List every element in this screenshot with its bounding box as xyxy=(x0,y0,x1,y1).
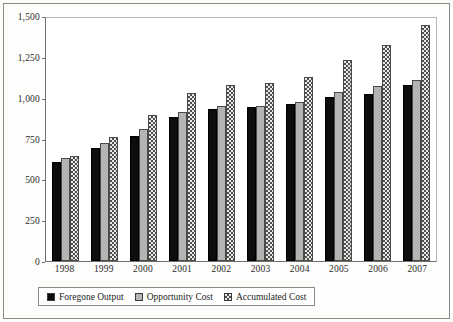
bar[interactable] xyxy=(412,80,421,261)
chart-page: 1,500 1,250 1,000 750 500 250 0 19981999… xyxy=(0,0,453,322)
bar[interactable] xyxy=(208,109,217,261)
legend-swatch-icon xyxy=(47,293,55,301)
x-axis-tick-label: 2006 xyxy=(359,264,398,274)
y-axis-tick: 0 xyxy=(35,257,45,267)
bar[interactable] xyxy=(334,92,343,261)
x-axis-tick-label: 2003 xyxy=(241,264,280,274)
bar-group xyxy=(169,18,196,261)
x-axis-tick-label: 2005 xyxy=(319,264,358,274)
bar[interactable] xyxy=(226,85,235,261)
bar[interactable] xyxy=(421,25,430,261)
bar[interactable] xyxy=(403,85,412,261)
plot-area xyxy=(45,17,437,262)
bar[interactable] xyxy=(70,156,79,261)
bar[interactable] xyxy=(169,117,178,261)
x-axis-tick-label: 1999 xyxy=(84,264,123,274)
bar[interactable] xyxy=(61,158,70,261)
bar[interactable] xyxy=(217,106,226,261)
y-axis-tick: 750 xyxy=(25,135,45,145)
legend-item-opportunity-cost[interactable]: Opportunity Cost xyxy=(135,292,213,302)
legend-label: Opportunity Cost xyxy=(147,292,213,302)
y-axis-tick: 250 xyxy=(25,216,45,226)
bar[interactable] xyxy=(373,86,382,261)
bar-group xyxy=(364,18,391,261)
x-axis-tick-label: 1998 xyxy=(45,264,84,274)
y-axis-tick-label: 1,250 xyxy=(18,53,45,63)
bar[interactable] xyxy=(382,45,391,261)
legend-label: Accumulated Cost xyxy=(236,292,306,302)
x-axis-tick-label: 2000 xyxy=(123,264,162,274)
bar-group xyxy=(325,18,352,261)
legend-item-foregone-output[interactable]: Foregone Output xyxy=(47,292,124,302)
y-axis-tick: 1,000 xyxy=(18,94,45,104)
bar[interactable] xyxy=(325,97,334,261)
bar[interactable] xyxy=(100,143,109,261)
bar-group xyxy=(52,18,79,261)
bar-group xyxy=(130,18,157,261)
x-axis-tick-label: 2007 xyxy=(398,264,437,274)
y-axis-tick-label: 250 xyxy=(25,216,45,226)
bar[interactable] xyxy=(265,83,274,261)
legend-item-accumulated-cost[interactable]: Accumulated Cost xyxy=(224,292,306,302)
bar[interactable] xyxy=(286,104,295,261)
y-axis-tick: 1,500 xyxy=(18,12,45,22)
bar-group xyxy=(403,18,430,261)
y-axis-tick-label: 1,500 xyxy=(18,12,45,22)
bar[interactable] xyxy=(247,107,256,261)
legend-swatch-icon xyxy=(135,293,143,301)
bar[interactable] xyxy=(178,112,187,261)
bar[interactable] xyxy=(304,77,313,261)
legend-swatch-icon xyxy=(224,293,232,301)
bar[interactable] xyxy=(130,136,139,261)
bar[interactable] xyxy=(187,93,196,261)
y-axis-tick-label: 750 xyxy=(25,135,45,145)
y-axis-tick-label: 0 xyxy=(35,257,45,267)
bar[interactable] xyxy=(148,115,157,261)
bar-group xyxy=(247,18,274,261)
x-axis: 1998199920002001200220032004200520062007 xyxy=(45,264,437,280)
bar[interactable] xyxy=(256,106,265,261)
bar-groups xyxy=(46,18,436,261)
y-axis-tick: 1,250 xyxy=(18,53,45,63)
bar-group xyxy=(91,18,118,261)
bar-group xyxy=(208,18,235,261)
x-axis-tick-label: 2004 xyxy=(280,264,319,274)
y-axis-tick-label: 1,000 xyxy=(18,94,45,104)
bar[interactable] xyxy=(109,137,118,261)
legend-label: Foregone Output xyxy=(59,292,124,302)
x-axis-tick-label: 2002 xyxy=(202,264,241,274)
y-axis-tick-label: 500 xyxy=(25,175,45,185)
bar-group xyxy=(286,18,313,261)
bar[interactable] xyxy=(343,60,352,261)
chart-legend: Foregone Output Opportunity Cost Accumul… xyxy=(38,287,315,306)
bar[interactable] xyxy=(91,148,100,261)
x-axis-tick-label: 2001 xyxy=(163,264,202,274)
y-axis-tick: 500 xyxy=(25,175,45,185)
bar[interactable] xyxy=(295,102,304,261)
bar[interactable] xyxy=(364,94,373,261)
bar[interactable] xyxy=(52,162,61,261)
y-axis: 1,500 1,250 1,000 750 500 250 0 xyxy=(0,17,45,262)
bar[interactable] xyxy=(139,129,148,261)
